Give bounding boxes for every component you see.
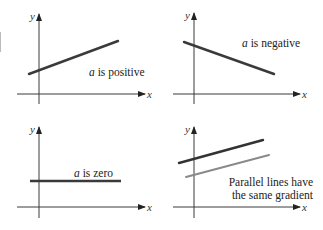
caption-zero: a is zero: [74, 167, 113, 179]
panel-negative: y x a is negative: [173, 9, 307, 104]
x-axis-label: x: [301, 201, 307, 213]
x-axis-label: x: [146, 201, 152, 213]
y-axis-label: y: [184, 9, 190, 21]
caption-parallel-line1: Parallel lines have: [229, 176, 313, 188]
panel-positive: y x a is positive: [17, 10, 152, 104]
gradient-diagram: y x a is positive y x a is negative y x …: [0, 0, 323, 230]
x-axis-label: x: [146, 88, 152, 100]
y-axis-label: y: [29, 123, 35, 135]
caption-parallel-line2: the same gradient: [232, 189, 314, 202]
diagram-canvas: y x a is positive y x a is negative y x …: [0, 0, 323, 230]
x-axis-label: x: [301, 88, 307, 100]
y-axis-label: y: [184, 123, 190, 135]
caption-positive: a is positive: [89, 66, 145, 79]
panel-parallel: y x Parallel lines have the same gradien…: [173, 123, 314, 218]
caption-negative: a is negative: [242, 37, 300, 50]
y-axis-label: y: [29, 10, 35, 22]
panel-zero: y x a is zero: [17, 123, 152, 218]
